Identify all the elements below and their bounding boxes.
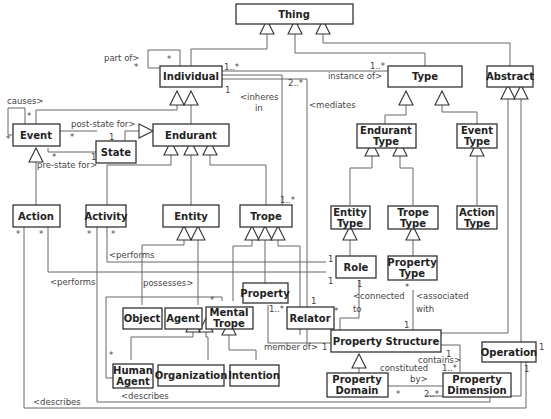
triangle-type-2-icon xyxy=(435,91,449,105)
mult-action-a: * xyxy=(16,229,20,239)
mult-pdom-constituted: * xyxy=(396,389,400,399)
post-state-for-label: post-state for> xyxy=(71,119,135,129)
mult-ps-member: 1 xyxy=(322,342,327,352)
type-to-thing-line xyxy=(295,34,425,66)
class-type[interactable]: Type xyxy=(388,66,462,87)
class-property-label: Property xyxy=(240,288,290,299)
pre-state-for-label: pre-state for> xyxy=(37,160,97,170)
class-intention-label: Intention xyxy=(228,370,280,381)
class-human-agent-label-1: Human xyxy=(113,365,153,376)
class-activity-label: Activity xyxy=(84,211,128,222)
class-entity-type[interactable]: Entity Type xyxy=(331,206,370,229)
class-entity-type-label-1: Entity xyxy=(333,207,367,218)
class-endurant-type[interactable]: Endurant Type xyxy=(357,124,416,148)
class-endurant-type-label-2: Type xyxy=(373,136,399,147)
mult-pdim-contains: 1..* xyxy=(442,363,457,373)
event-type-to-type-line xyxy=(442,105,477,124)
class-relator-label: Relator xyxy=(289,313,330,324)
class-operation-label: Operation xyxy=(481,347,537,358)
class-object[interactable]: Object xyxy=(123,308,162,329)
class-action[interactable]: Action xyxy=(13,205,60,227)
class-activity[interactable]: Activity xyxy=(84,205,128,227)
class-property-type-label-2: Type xyxy=(399,268,425,279)
performs-activity-label: <performs xyxy=(109,250,155,260)
mult-ps-contains: 1 xyxy=(446,349,451,359)
mult-part-of-a: * xyxy=(134,62,138,72)
triangle-trope-2-icon xyxy=(258,226,272,240)
describes-action-label: <describes xyxy=(33,397,81,407)
class-thing[interactable]: Thing xyxy=(236,4,353,24)
class-state-label: State xyxy=(101,147,132,158)
class-property-structure[interactable]: Property Structure xyxy=(331,330,441,352)
class-type-label: Type xyxy=(412,71,438,82)
association-labels: part of> instance of> <inheres in <media… xyxy=(7,53,469,407)
class-human-agent[interactable]: Human Agent xyxy=(113,364,153,388)
class-property-domain[interactable]: Property Domain xyxy=(327,373,388,397)
class-agent-label: Agent xyxy=(166,313,200,324)
triangle-property-structure-icon xyxy=(352,354,366,368)
mult-activity-b: * xyxy=(111,229,115,239)
class-individual[interactable]: Individual xyxy=(160,66,222,87)
abstract-to-thing-line xyxy=(323,34,510,66)
entity-type-to-endurant-type-line xyxy=(350,156,372,205)
triangle-trope-1-icon xyxy=(245,226,259,240)
mult-individual-mediates: 2..* xyxy=(288,78,303,88)
mult-relator-mediates: 1 xyxy=(311,296,316,306)
class-operation[interactable]: Operation xyxy=(481,342,537,362)
triangle-entity-2-icon xyxy=(191,226,205,240)
mult-part-of-b: * xyxy=(167,54,171,64)
class-role-label: Role xyxy=(344,262,369,273)
causes-label: causes> xyxy=(7,96,43,106)
class-endurant-type-label-1: Endurant xyxy=(360,125,412,136)
class-organization[interactable]: Organization xyxy=(155,365,228,386)
mult-type-instance: 1..* xyxy=(370,61,385,71)
class-property-type[interactable]: Property Type xyxy=(387,256,437,280)
constituted-by-label-1: constituted xyxy=(380,363,428,373)
triangle-entity-1-icon xyxy=(177,226,191,240)
class-event-label: Event xyxy=(20,130,52,141)
class-property[interactable]: Property xyxy=(240,283,290,303)
class-endurant[interactable]: Endurant xyxy=(153,124,229,146)
class-role[interactable]: Role xyxy=(336,256,376,278)
class-individual-label: Individual xyxy=(163,71,219,82)
member-of-label: member of> xyxy=(264,342,318,352)
triangle-trope-3-icon xyxy=(271,226,285,240)
mult-event-post: * xyxy=(70,132,74,142)
class-property-dimension[interactable]: Property Dimension xyxy=(443,373,511,397)
associated-with-label-1: <associated xyxy=(416,291,469,301)
class-trope[interactable]: Trope xyxy=(240,205,292,227)
mult-operation-a: 1 xyxy=(539,342,544,352)
class-endurant-label: Endurant xyxy=(165,130,217,141)
human-agent-to-agent-line xyxy=(131,332,193,360)
class-agent[interactable]: Agent xyxy=(165,308,202,329)
triangle-individual-1-icon xyxy=(170,91,184,105)
organization-to-agent-line xyxy=(206,332,208,360)
state-to-endurant-line xyxy=(125,131,139,141)
associated-with-label-2: with xyxy=(416,304,434,314)
class-state[interactable]: State xyxy=(96,141,136,163)
class-trope-type-label-2: Type xyxy=(400,218,426,229)
trope-type-to-endurant-type-line xyxy=(400,156,413,205)
class-event-type[interactable]: Event Type xyxy=(457,124,497,148)
class-property-dimension-label-2: Dimension xyxy=(447,385,506,396)
class-trope-type[interactable]: Trope Type xyxy=(388,206,438,229)
class-relator[interactable]: Relator xyxy=(287,307,334,329)
mult-state-pre: 1 xyxy=(91,152,96,162)
class-intention[interactable]: Intention xyxy=(228,365,280,386)
mult-role-perf-1: 1 xyxy=(328,254,333,264)
class-mental-trope[interactable]: Mental Trope xyxy=(206,307,253,329)
mult-human-agent-star: * xyxy=(109,350,113,360)
triangle-type-1-icon xyxy=(399,91,413,105)
class-property-type-label-1: Property xyxy=(387,257,437,268)
class-event[interactable]: Event xyxy=(13,124,60,146)
class-entity[interactable]: Entity xyxy=(163,205,219,227)
class-abstract[interactable]: Abstract xyxy=(486,66,534,87)
class-event-type-label-1: Event xyxy=(461,125,493,136)
instance-of-label: instance of> xyxy=(328,71,382,81)
mult-activity-a: * xyxy=(87,229,91,239)
mult-causes-b: * xyxy=(6,134,10,144)
class-action-type-label-1: Action xyxy=(459,207,495,218)
mult-action-b: * xyxy=(39,229,43,239)
class-action-type[interactable]: Action Type xyxy=(457,206,497,229)
mult-role-connected: 1 xyxy=(357,279,362,289)
